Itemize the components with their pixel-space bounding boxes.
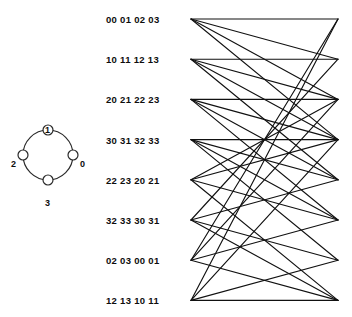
figure-canvas: 1 2 0 3 00 01 02 03 10 11 12 13 20 21 22… <box>0 0 352 317</box>
interconnection-edges <box>0 0 352 317</box>
